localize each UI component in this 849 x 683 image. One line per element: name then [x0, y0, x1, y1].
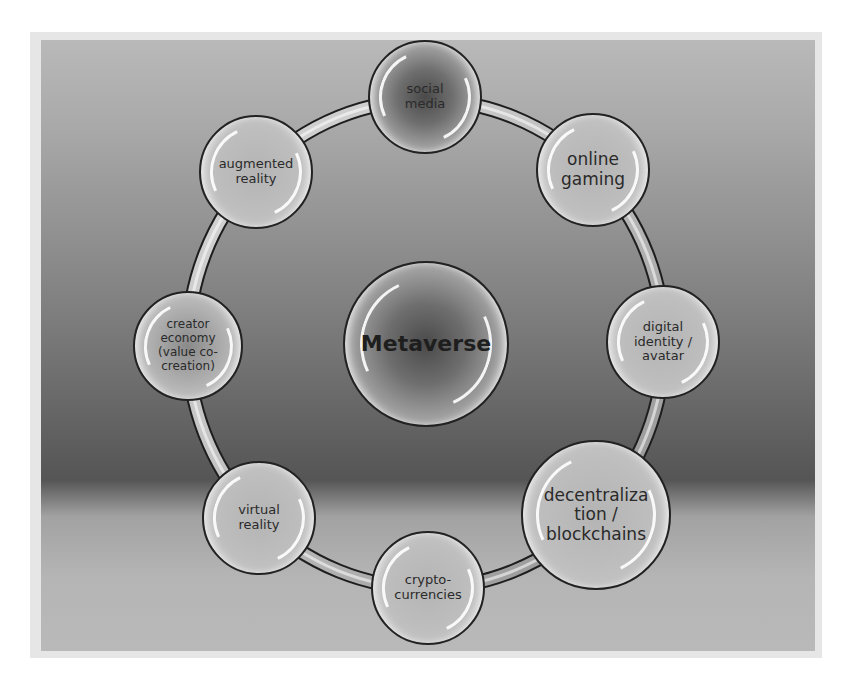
node-label: digital identity / avatar: [634, 320, 692, 365]
node-augmented-reality: augmented reality: [199, 115, 313, 229]
node-crypto-currencies: crypto- currencies: [371, 531, 485, 645]
node-label: online gaming: [561, 150, 625, 189]
node-virtual-reality: virtual reality: [202, 461, 316, 575]
node-social-media: social media: [368, 40, 482, 154]
node-label: creator economy (value co- creation): [158, 318, 218, 373]
node-label: decentraliza tion / blockchains: [544, 486, 649, 545]
node-creator-economy: creator economy (value co- creation): [133, 291, 243, 401]
node-label: augmented reality: [219, 157, 294, 187]
node-digital-identity-avatar: digital identity / avatar: [606, 285, 720, 399]
node-label: crypto- currencies: [394, 573, 461, 603]
center-node-metaverse: Metaverse: [343, 261, 509, 427]
node-decentralization-blockchains: decentraliza tion / blockchains: [521, 440, 671, 590]
node-label: virtual reality: [238, 503, 280, 533]
node-label: social media: [405, 82, 446, 112]
node-online-gaming: online gaming: [536, 113, 650, 227]
center-node-label: Metaverse: [361, 331, 491, 356]
